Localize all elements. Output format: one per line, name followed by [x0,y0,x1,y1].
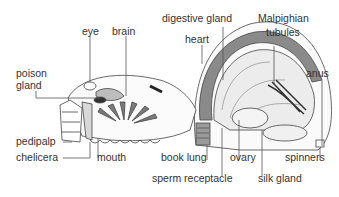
spinners-shape [316,140,324,147]
label-anus: anus [306,68,329,79]
label-ovary: ovary [230,152,256,163]
silk-gland [263,125,307,141]
eye-shape [84,82,96,90]
label-eye: eye [82,26,99,37]
label-digestive-gland: digestive gland [162,13,232,24]
label-brain: brain [112,26,135,37]
label-heart: heart [185,34,209,45]
label-silk-gland: silk gland [258,173,302,184]
label-malpighian-line2: tubules [266,27,300,38]
label-chelicera: chelicera [16,152,58,163]
pedipalp-shape [60,100,82,142]
label-sperm-receptacle: sperm receptacle [152,173,233,184]
label-malpighian-line1: Malpighian [258,13,309,24]
book-lung [196,123,210,145]
label-pedipalp: pedipalp [16,136,56,147]
label-poison-gland-line2: gland [16,80,42,91]
ovary [232,108,268,128]
leader-chelicera [63,142,90,158]
label-mouth: mouth [97,152,126,163]
label-poison-gland-line1: poison [16,68,47,79]
label-spinners: spinners [285,152,325,163]
label-book-lung: book lung [161,152,207,163]
